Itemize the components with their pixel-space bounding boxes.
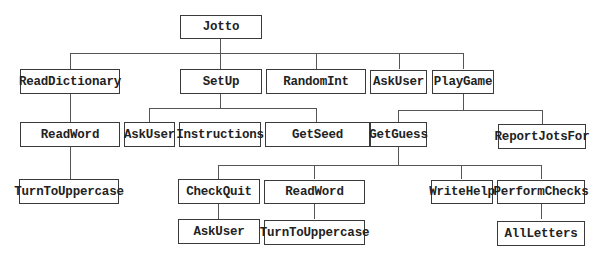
node-askuser-1: AskUser xyxy=(370,70,427,94)
edge-to-getguess xyxy=(398,110,399,122)
edge-to-performchecks xyxy=(541,165,542,179)
bus-jotto-children xyxy=(70,53,464,54)
edge-to-checkquit xyxy=(218,165,219,179)
edge-to-writehelp xyxy=(461,165,462,179)
bus-playgame-children xyxy=(398,110,543,111)
edge-to-askuser-2 xyxy=(149,108,150,122)
node-allletters: AllLetters xyxy=(497,221,585,246)
edge-getguess-down xyxy=(398,147,399,165)
edge-to-readdictionary xyxy=(70,53,71,69)
edge-to-askuser-1 xyxy=(399,53,400,69)
edge-to-playgame xyxy=(463,53,464,69)
node-reportjotsfor: ReportJotsFor xyxy=(498,124,586,149)
edge-setup-down xyxy=(220,93,221,108)
node-writehelp: WriteHelp xyxy=(431,180,493,204)
node-turntouppercase-1: TurnToUppercase xyxy=(19,179,119,204)
node-readword-1: ReadWord xyxy=(20,122,120,147)
node-playgame: PlayGame xyxy=(432,70,494,94)
edge-readword-turntouppercase xyxy=(70,147,71,179)
edge-to-getseed xyxy=(316,108,317,122)
node-performchecks: PerformChecks xyxy=(497,180,585,204)
node-jotto: Jotto xyxy=(180,15,262,39)
edge-jotto-down xyxy=(220,38,221,53)
bus-setup-children xyxy=(149,108,317,109)
edge-checkquit-askuser xyxy=(218,203,219,219)
edge-readword-turntouppercase-2 xyxy=(314,203,315,219)
edge-to-randomint xyxy=(316,53,317,69)
edge-to-setup xyxy=(220,53,221,69)
node-askuser-3: AskUser xyxy=(178,219,260,244)
node-randomint: RandomInt xyxy=(266,69,366,94)
node-readword-2: ReadWord xyxy=(264,180,365,204)
edge-readdictionary-readword xyxy=(70,93,71,122)
node-turntouppercase-2: TurnToUppercase xyxy=(264,220,365,245)
edge-to-readword-2 xyxy=(314,165,315,179)
node-getguess: GetGuess xyxy=(370,122,427,147)
node-readdictionary: ReadDictionary xyxy=(20,69,120,94)
node-askuser-2: AskUser xyxy=(124,122,175,147)
node-instructions: Instructions xyxy=(179,122,261,147)
node-setup: SetUp xyxy=(180,69,262,94)
edge-to-reportjotsfor xyxy=(542,110,543,124)
edge-playgame-down xyxy=(463,93,464,110)
edge-performchecks-allletters xyxy=(541,203,542,219)
bus-getguess-children xyxy=(218,165,542,166)
node-checkquit: CheckQuit xyxy=(178,179,260,204)
node-getseed: GetSeed xyxy=(265,122,370,147)
